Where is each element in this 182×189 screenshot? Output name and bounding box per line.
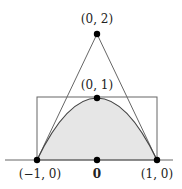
point-right (154, 157, 160, 163)
label-left: (−1, 0) (19, 167, 61, 181)
diagram-canvas (0, 0, 182, 189)
point-left (34, 157, 40, 163)
point-origin (94, 157, 100, 163)
point-vertex (94, 95, 100, 101)
label-vertex: (0, 1) (81, 78, 113, 92)
label-origin: 0 (93, 167, 101, 181)
label-right: (1, 0) (141, 167, 173, 181)
label-apex: (0, 2) (81, 12, 113, 26)
point-apex (94, 31, 100, 37)
